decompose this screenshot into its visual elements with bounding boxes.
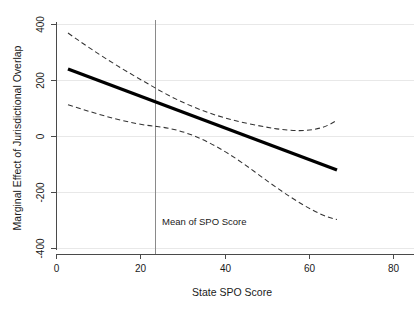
marginal-effect-line — [68, 69, 337, 170]
y-tick-label-200: 200 — [35, 72, 46, 89]
x-tick-label-0: 0 — [54, 263, 60, 274]
x-tick-label-20: 20 — [135, 263, 147, 274]
lower-confidence-bound — [68, 105, 337, 220]
y-tick-label-neg400: -400 — [35, 238, 46, 258]
x-tick-label-60: 60 — [304, 263, 316, 274]
x-tick-labels: 0 20 40 60 80 — [54, 263, 400, 274]
upper-confidence-bound — [68, 33, 337, 131]
y-tick-label-400: 400 — [35, 16, 46, 33]
chart-figure: 400 200 0 -200 -400 0 20 40 60 80 Margin… — [0, 0, 418, 309]
gridlines — [56, 25, 414, 249]
marginal-effect-plot: 400 200 0 -200 -400 0 20 40 60 80 Margin… — [0, 0, 418, 309]
mean-spo-annotation-label: Mean of SPO Score — [162, 216, 246, 227]
y-axis-title: Marginal Effect of Jurisdictional Overla… — [11, 45, 23, 230]
y-tick-marks — [51, 25, 56, 249]
y-tick-label-neg200: -200 — [35, 182, 46, 202]
x-tick-label-40: 40 — [220, 263, 232, 274]
y-tick-labels: 400 200 0 -200 -400 — [35, 16, 46, 259]
x-tick-label-80: 80 — [388, 263, 400, 274]
x-axis-title: State SPO Score — [192, 286, 272, 298]
y-tick-label-0: 0 — [35, 133, 46, 139]
